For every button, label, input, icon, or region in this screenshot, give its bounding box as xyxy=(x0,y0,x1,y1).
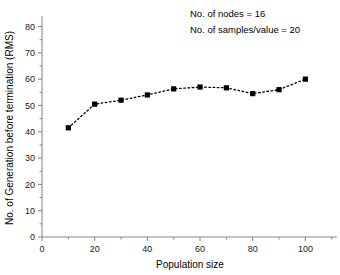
y-tick-label: 20 xyxy=(25,180,35,190)
x-tick-label: 60 xyxy=(195,244,205,254)
x-axis-title: Population size xyxy=(156,259,224,270)
data-point-marker xyxy=(171,86,176,91)
data-point-marker xyxy=(303,77,308,82)
y-tick-label: 70 xyxy=(25,48,35,58)
chart-background xyxy=(0,0,340,275)
y-tick-label: 40 xyxy=(25,127,35,137)
chart-figure: 01020304050607080 020406080100 Populatio… xyxy=(0,0,340,275)
x-tick-label: 0 xyxy=(39,244,44,254)
data-point-marker xyxy=(224,85,229,90)
x-tick-label: 100 xyxy=(298,244,313,254)
x-tick-label: 40 xyxy=(142,244,152,254)
x-tick-label: 20 xyxy=(90,244,100,254)
data-point-marker xyxy=(276,87,281,92)
y-tick-label: 10 xyxy=(25,206,35,216)
y-tick-labels: 01020304050607080 xyxy=(25,22,35,242)
data-point-marker xyxy=(145,92,150,97)
data-point-marker xyxy=(66,125,71,130)
y-tick-label: 0 xyxy=(30,232,35,242)
y-tick-label: 50 xyxy=(25,101,35,111)
x-tick-label: 80 xyxy=(248,244,258,254)
data-point-marker xyxy=(118,98,123,103)
y-tick-label: 30 xyxy=(25,153,35,163)
data-point-marker xyxy=(250,91,255,96)
y-tick-label: 80 xyxy=(25,22,35,32)
annotation-samples: No. of samples/value = 20 xyxy=(190,24,300,35)
y-axis-title: No. of Generation before termination (RM… xyxy=(4,31,15,225)
data-point-marker xyxy=(197,84,202,89)
annotation-nodes: No. of nodes = 16 xyxy=(190,8,265,19)
data-point-marker xyxy=(92,102,97,107)
y-tick-label: 60 xyxy=(25,74,35,84)
chart-plot-area: 01020304050607080 020406080100 Populatio… xyxy=(0,0,340,275)
